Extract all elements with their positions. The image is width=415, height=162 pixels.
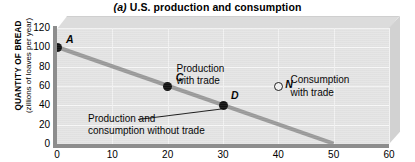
- data-point-label-n: N: [285, 79, 293, 90]
- data-point-n: [274, 82, 283, 91]
- x-tick-label: 40: [266, 150, 290, 160]
- x-tick-label: 10: [100, 150, 124, 160]
- x-tick-label: 60: [377, 150, 401, 160]
- annotation-production-and-consumption-without-trade: Production andconsumption without trade: [88, 113, 205, 138]
- vertical-gridline: [389, 28, 390, 144]
- y-tick-label: 20: [24, 120, 50, 130]
- annotation-consumption-with-trade: Consumptionwith trade: [291, 74, 350, 99]
- plot-block-right-bevel: [389, 16, 400, 144]
- annotation-line: with trade: [291, 87, 350, 100]
- y-tick-label: 100: [24, 42, 50, 52]
- y-axis-tick-labels: 020406080100120: [22, 0, 50, 162]
- y-tick-label: 80: [24, 62, 50, 72]
- y-tick-label: 60: [24, 81, 50, 91]
- chart-title-text: U.S. production and consumption: [127, 1, 302, 13]
- plot-area: Productionwith tradeConsumptionwith trad…: [57, 28, 389, 144]
- plot-face: Productionwith tradeConsumptionwith trad…: [57, 28, 389, 144]
- y-axis-line: [53, 26, 57, 146]
- x-tick-label: 30: [211, 150, 235, 160]
- annotation-production-with-trade: Productionwith trade: [177, 63, 225, 88]
- x-tick-label: 0: [45, 150, 69, 160]
- annotation-line: with trade: [177, 75, 225, 88]
- annotation-line: Production: [177, 63, 225, 76]
- x-tick-label: 20: [156, 150, 180, 160]
- y-tick-label: 120: [24, 23, 50, 33]
- chart-title: (a) U.S. production and consumption: [0, 1, 415, 13]
- y-tick-label: 0: [24, 139, 50, 149]
- annotation-line: Consumption: [291, 74, 350, 87]
- data-point-label-a: A: [66, 34, 74, 45]
- x-axis-line: [53, 144, 389, 148]
- x-tick-label: 50: [322, 150, 346, 160]
- annotation-line: Production and: [88, 113, 205, 126]
- annotation-line: consumption without trade: [88, 125, 205, 138]
- y-tick-label: 40: [24, 100, 50, 110]
- data-point-c: [163, 82, 172, 91]
- data-point-d: [219, 101, 228, 110]
- data-point-label-c: C: [176, 72, 184, 83]
- chart-title-prefix: (a): [114, 1, 127, 13]
- data-point-label-d: D: [231, 90, 239, 101]
